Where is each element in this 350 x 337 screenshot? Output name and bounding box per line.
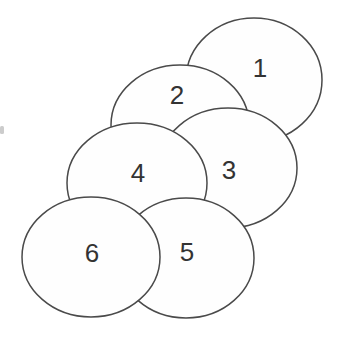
circle-label-6: 6: [85, 238, 99, 268]
circle-label-4: 4: [131, 158, 145, 188]
circle-label-5: 5: [180, 237, 194, 267]
circle-label-2: 2: [170, 80, 184, 110]
stray-mark: [0, 126, 4, 134]
overlapping-circles-diagram: 123456: [0, 0, 350, 337]
circle-label-1: 1: [253, 53, 267, 83]
diagram-canvas: 123456: [0, 0, 350, 337]
circle-label-3: 3: [222, 155, 236, 185]
